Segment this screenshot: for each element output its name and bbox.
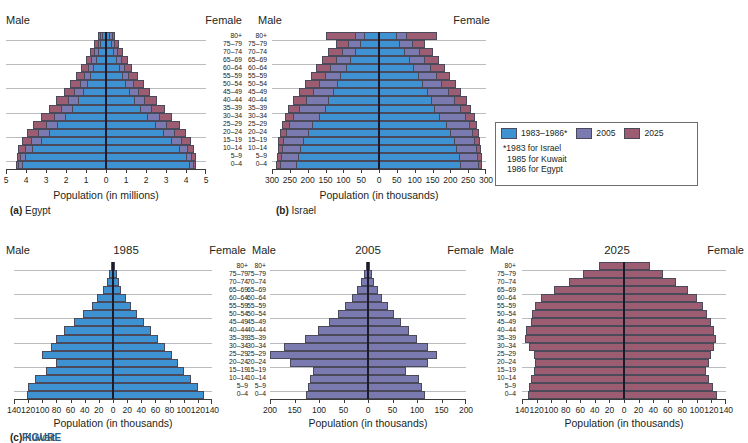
bar-female-2025	[624, 383, 713, 391]
x-tick-label: 150	[434, 405, 448, 415]
x-tick-label: 100	[35, 405, 49, 415]
bar-male-1983	[312, 121, 379, 129]
bar-female-2005	[368, 343, 428, 351]
axis-baseline	[522, 399, 726, 400]
x-tick-label: 60	[576, 405, 585, 415]
bar-female-1986	[106, 80, 126, 88]
center-axis-line	[112, 262, 113, 399]
legend-notes: *1983 for Israel1985 for Kuwait1986 for …	[503, 143, 567, 175]
x-tick-label: 60	[663, 405, 672, 415]
bar-male-2025	[532, 310, 624, 318]
bar-male-1985	[56, 335, 113, 343]
bar-female-1983	[379, 145, 457, 153]
bar-male-1986	[65, 113, 106, 121]
legend-swatch	[624, 128, 640, 139]
age-group-label: 50–54	[497, 311, 516, 318]
age-group-label: 50–54	[248, 81, 267, 88]
k2005-age-labels: 80+75–7970–7465–6960–6455–5950–5445–4940…	[232, 262, 266, 399]
age-group-label: 30–34	[248, 113, 267, 120]
age-group-label: 25–29	[248, 121, 267, 128]
bar-male-1983	[333, 88, 379, 96]
bar-male-1983	[340, 72, 379, 80]
israel-caption-prefix: (b)	[276, 205, 289, 216]
axis-baseline	[14, 399, 212, 400]
female-label: Female	[453, 14, 490, 26]
male-label: Male	[490, 244, 514, 256]
x-tick-label: 0	[104, 175, 109, 185]
x-tick-label: 100	[336, 175, 350, 185]
bar-female-1985	[113, 383, 198, 391]
legend-item[interactable]: 2025	[624, 128, 663, 139]
x-tick-label: 60	[66, 405, 75, 415]
age-group-label: 80+	[254, 263, 266, 270]
egypt-xticklabels: 54321012345	[6, 175, 206, 186]
age-group-label: 30–34	[247, 343, 266, 350]
egypt-caption: (a) Egypt	[10, 205, 51, 216]
bar-female-1986	[106, 121, 156, 129]
egypt-tickbar	[6, 169, 206, 174]
kuwait-caption-prefix: (c)	[10, 432, 22, 443]
bar-female-1983	[379, 88, 428, 96]
bar-female-1985	[113, 318, 144, 326]
bar-male-2025	[529, 383, 624, 391]
x-tick-label: 50	[388, 405, 397, 415]
bar-female-2025	[624, 262, 650, 270]
k1985-header: Male 1985 Female	[6, 244, 246, 260]
bar-female-2005	[368, 286, 378, 294]
bar-female-2025	[624, 286, 688, 294]
bar-female-1985	[113, 326, 151, 334]
bar-female-1983	[379, 80, 423, 88]
legend-label: 2005	[596, 128, 615, 138]
legend-item[interactable]: 2005	[576, 128, 615, 139]
x-tick-label: 50	[356, 175, 365, 185]
figure-number-label: FIGURE	[22, 432, 62, 443]
bar-female-1986	[106, 64, 120, 72]
x-tick-label: 40	[590, 405, 599, 415]
x-tick-label: 20	[122, 405, 131, 415]
bar-male-2025	[535, 359, 624, 367]
male-label: Male	[258, 14, 282, 26]
bar-male-2005	[308, 383, 368, 391]
bar-male-1985	[97, 294, 113, 302]
x-tick-label: 100	[544, 405, 558, 415]
bar-female-1983	[379, 48, 405, 56]
x-tick-label: 200	[263, 405, 277, 415]
bar-female-2005	[368, 351, 437, 359]
bar-male-2025	[531, 318, 624, 326]
age-group-label: 60–64	[247, 295, 266, 302]
pyramid-kuwait-2025: Male 2025 Female 80+75–7970–7465–6960–64…	[490, 244, 744, 430]
legend-note: *1983 for Israel	[503, 143, 567, 154]
x-tick-label: 0	[111, 405, 116, 415]
bar-male-1985	[27, 391, 113, 399]
bar-male-1983	[300, 145, 379, 153]
bar-female-2025	[624, 391, 717, 399]
bar-male-1983	[360, 40, 379, 48]
age-group-label: 70–74	[248, 49, 267, 56]
bar-male-1985	[64, 326, 114, 334]
bar-female-2005	[368, 278, 374, 286]
x-tick-label: 100	[410, 405, 424, 415]
age-group-label: 70–74	[247, 279, 266, 286]
axis-baseline	[6, 169, 206, 170]
legend-item[interactable]: 1983–1986*	[501, 128, 567, 139]
bar-male-1983	[355, 48, 379, 56]
bar-female-2005	[368, 294, 382, 302]
bar-female-1986	[106, 88, 130, 96]
k2005-tickbar	[270, 399, 466, 404]
center-axis-line	[378, 32, 379, 169]
bar-female-1985	[113, 302, 131, 310]
bar-male-2025	[526, 326, 624, 334]
israel-xticklabels: 30025020015010050050100150200250300	[272, 175, 486, 186]
x-tick-label: 0	[377, 175, 382, 185]
x-tick-label: 80	[678, 405, 687, 415]
x-tick-label: 50	[339, 405, 348, 415]
age-group-label: 45–49	[248, 89, 267, 96]
israel-plot	[272, 32, 486, 169]
israel-tickbar	[272, 169, 486, 174]
x-tick-label: 1	[84, 175, 89, 185]
x-tick-label: 40	[80, 405, 89, 415]
bar-female-1986	[106, 129, 164, 137]
bar-male-2005	[329, 318, 368, 326]
k1985-xaxis-title: Population (in thousands)	[14, 417, 212, 429]
bar-female-1985	[113, 335, 158, 343]
